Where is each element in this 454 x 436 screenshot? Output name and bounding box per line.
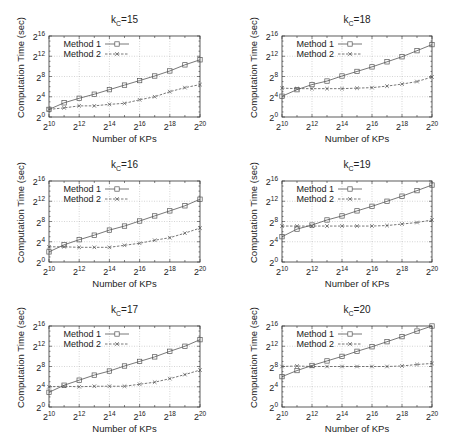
x-tick-label: 214 bbox=[336, 120, 349, 132]
legend-label: Method 1 bbox=[296, 184, 334, 194]
legend-label: Method 1 bbox=[63, 329, 101, 339]
y-tick-label: 28 bbox=[269, 71, 278, 83]
y-tick-label: 212 bbox=[33, 50, 46, 62]
x-tick-label: 220 bbox=[194, 265, 207, 277]
x-axis-label: Number of KPs bbox=[65, 278, 185, 289]
y-tick-label: 212 bbox=[266, 340, 279, 352]
y-axis-label: Computation Time (sec) bbox=[248, 307, 259, 408]
x-axis-label: Number of KPs bbox=[297, 423, 417, 434]
legend-label: Method 1 bbox=[296, 39, 334, 49]
x-axis-label: Number of KPs bbox=[297, 133, 417, 144]
legend-label: Method 1 bbox=[63, 184, 101, 194]
x-tick-label: 220 bbox=[426, 120, 439, 132]
x-tick-label: 216 bbox=[133, 265, 146, 277]
square-marker bbox=[115, 332, 119, 336]
legend-label: Method 2 bbox=[296, 49, 334, 59]
x-tick-label: 218 bbox=[396, 410, 409, 422]
square-marker bbox=[115, 187, 119, 191]
y-tick-label: 216 bbox=[33, 320, 46, 332]
square-marker bbox=[348, 42, 352, 46]
y-axis-label: Computation Time (sec) bbox=[15, 17, 26, 118]
x-tick-label: 210 bbox=[43, 265, 56, 277]
x-tick-label: 214 bbox=[103, 265, 116, 277]
chart-panel-kc16: kC=16210212214216218220202428212216Metho… bbox=[0, 145, 227, 290]
x-tick-label: 218 bbox=[164, 120, 177, 132]
x-tick-label: 220 bbox=[194, 120, 207, 132]
y-tick-label: 212 bbox=[33, 195, 46, 207]
series-method-2 bbox=[280, 362, 434, 369]
y-axis-label: Computation Time (sec) bbox=[248, 162, 259, 263]
chart-panel-kc17: kC=17210212214216218220202428212216Metho… bbox=[0, 290, 227, 435]
y-tick-label: 28 bbox=[36, 71, 45, 83]
y-tick-label: 216 bbox=[33, 30, 46, 42]
y-axis-label: Computation Time (sec) bbox=[248, 17, 259, 118]
x-axis-label: Number of KPs bbox=[297, 278, 417, 289]
legend-label: Method 2 bbox=[296, 339, 334, 349]
y-tick-label: 28 bbox=[36, 361, 45, 373]
x-tick-label: 210 bbox=[43, 410, 56, 422]
y-tick-label: 24 bbox=[269, 381, 278, 393]
y-tick-label: 24 bbox=[36, 236, 45, 248]
series-method-2 bbox=[47, 226, 202, 249]
chart-panel-kc15: kC=15210212214216218220202428212216Metho… bbox=[0, 0, 227, 145]
x-tick-label: 210 bbox=[276, 410, 289, 422]
chart-plot: 210212214216218220202428212216Method 1Me… bbox=[0, 290, 227, 435]
series-method-2 bbox=[47, 368, 202, 388]
x-tick-label: 210 bbox=[276, 120, 289, 132]
x-tick-label: 220 bbox=[426, 265, 439, 277]
x-tick-label: 214 bbox=[103, 410, 116, 422]
y-tick-label: 212 bbox=[266, 195, 279, 207]
x-tick-label: 218 bbox=[396, 265, 409, 277]
square-marker bbox=[348, 187, 352, 191]
x-marker bbox=[168, 90, 172, 94]
x-tick-label: 216 bbox=[366, 410, 379, 422]
x-tick-label: 218 bbox=[396, 120, 409, 132]
y-tick-label: 216 bbox=[266, 320, 279, 332]
y-tick-label: 24 bbox=[269, 236, 278, 248]
y-tick-label: 212 bbox=[266, 50, 279, 62]
series-method-2 bbox=[280, 75, 434, 90]
y-tick-label: 24 bbox=[269, 91, 278, 103]
y-tick-label: 28 bbox=[269, 216, 278, 228]
y-tick-label: 24 bbox=[36, 381, 45, 393]
legend-label: Method 2 bbox=[63, 49, 101, 59]
chart-plot: 210212214216218220202428212216Method 1Me… bbox=[0, 145, 227, 290]
y-axis-label: Computation Time (sec) bbox=[15, 162, 26, 263]
x-tick-label: 212 bbox=[73, 120, 86, 132]
x-tick-label: 216 bbox=[366, 265, 379, 277]
x-axis-label: Number of KPs bbox=[65, 133, 185, 144]
x-tick-label: 214 bbox=[336, 265, 349, 277]
y-axis-label: Computation Time (sec) bbox=[15, 307, 26, 408]
y-tick-label: 216 bbox=[33, 175, 46, 187]
x-tick-label: 212 bbox=[73, 265, 86, 277]
x-tick-label: 216 bbox=[133, 120, 146, 132]
x-tick-label: 212 bbox=[73, 410, 86, 422]
x-tick-label: 214 bbox=[336, 410, 349, 422]
chart-plot: 210212214216218220202428212216Method 1Me… bbox=[227, 145, 454, 290]
x-axis-label: Number of KPs bbox=[65, 423, 185, 434]
y-tick-label: 216 bbox=[266, 175, 279, 187]
legend-label: Method 2 bbox=[296, 194, 334, 204]
square-marker bbox=[115, 42, 119, 46]
chart-panel-kc20: kC=20210212214216218220202428212216Metho… bbox=[227, 290, 454, 435]
legend-label: Method 1 bbox=[296, 329, 334, 339]
chart-panel-kc19: kC=19210212214216218220202428212216Metho… bbox=[227, 145, 454, 290]
legend-label: Method 2 bbox=[63, 194, 101, 204]
y-tick-label: 216 bbox=[266, 30, 279, 42]
x-tick-label: 218 bbox=[164, 410, 177, 422]
x-tick-label: 220 bbox=[426, 410, 439, 422]
x-tick-label: 214 bbox=[103, 120, 116, 132]
y-tick-label: 212 bbox=[33, 340, 46, 352]
x-tick-label: 212 bbox=[306, 120, 319, 132]
legend-label: Method 1 bbox=[63, 39, 101, 49]
x-tick-label: 210 bbox=[43, 120, 56, 132]
square-marker bbox=[348, 332, 352, 336]
legend-label: Method 2 bbox=[63, 339, 101, 349]
x-tick-label: 212 bbox=[306, 410, 319, 422]
x-tick-label: 210 bbox=[276, 265, 289, 277]
y-tick-label: 28 bbox=[269, 361, 278, 373]
chart-plot: 210212214216218220202428212216Method 1Me… bbox=[227, 290, 454, 435]
series-method-2 bbox=[280, 218, 434, 228]
y-tick-label: 24 bbox=[36, 91, 45, 103]
x-tick-label: 216 bbox=[366, 120, 379, 132]
